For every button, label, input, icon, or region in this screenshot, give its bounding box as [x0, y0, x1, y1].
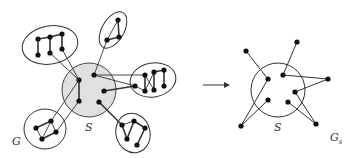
component-right: [127, 59, 178, 100]
separator-label-S-right: S: [274, 121, 282, 134]
graph-label-G: G: [12, 135, 21, 148]
separator-label-S: S: [85, 121, 93, 134]
component-bottom-right: [111, 109, 154, 156]
right-graph-Gs: [238, 39, 330, 128]
graph-label-Gs-main: G: [330, 131, 339, 144]
left-graph-G: [19, 7, 178, 157]
graph-label-Gs-sub: s: [339, 138, 343, 146]
transform-arrow-icon: [203, 82, 230, 88]
component-bottom-left: [24, 109, 66, 149]
diagram-canvas: [0, 0, 357, 158]
graph-label-Gs: Gs: [330, 131, 342, 146]
